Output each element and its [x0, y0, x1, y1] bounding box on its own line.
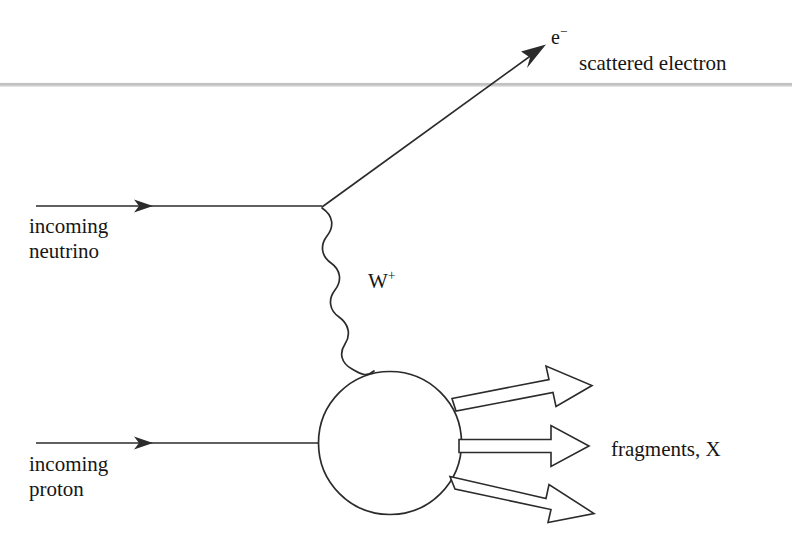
label-incoming-proton-line1: incoming	[29, 452, 108, 476]
label-scattered-electron-particle: e−	[551, 24, 567, 49]
label-incoming-proton: incomingproton	[29, 452, 108, 502]
scattered-electron-arrowhead	[521, 45, 546, 69]
label-incoming-neutrino: incomingneutrino	[29, 214, 108, 264]
electron-symbol: e	[551, 26, 560, 48]
fragment-arrow-lower	[450, 477, 594, 523]
electron-charge-superscript: −	[560, 24, 567, 39]
hadronic-blob-circle	[319, 372, 462, 515]
label-incoming-neutrino-line2: neutrino	[29, 239, 108, 264]
label-scattered-electron-caption: scattered electron	[579, 51, 727, 76]
horizontal-rule	[0, 83, 792, 88]
label-w-boson: W+	[368, 268, 396, 294]
fragment-arrow-middle	[459, 426, 589, 467]
w-boson-charge-superscript: +	[388, 268, 396, 283]
fragment-arrow-upper	[452, 366, 592, 411]
scattered-electron-line	[322, 49, 540, 207]
w-boson-propagator	[322, 208, 374, 375]
label-incoming-neutrino-line1: incoming	[29, 214, 108, 238]
label-incoming-proton-line2: proton	[29, 477, 108, 502]
feynman-diagram: e− scattered electron incomingneutrino W…	[0, 0, 792, 549]
label-fragments: fragments, X	[611, 437, 721, 462]
w-boson-symbol: W	[368, 269, 388, 293]
feynman-diagram-canvas	[0, 0, 792, 549]
